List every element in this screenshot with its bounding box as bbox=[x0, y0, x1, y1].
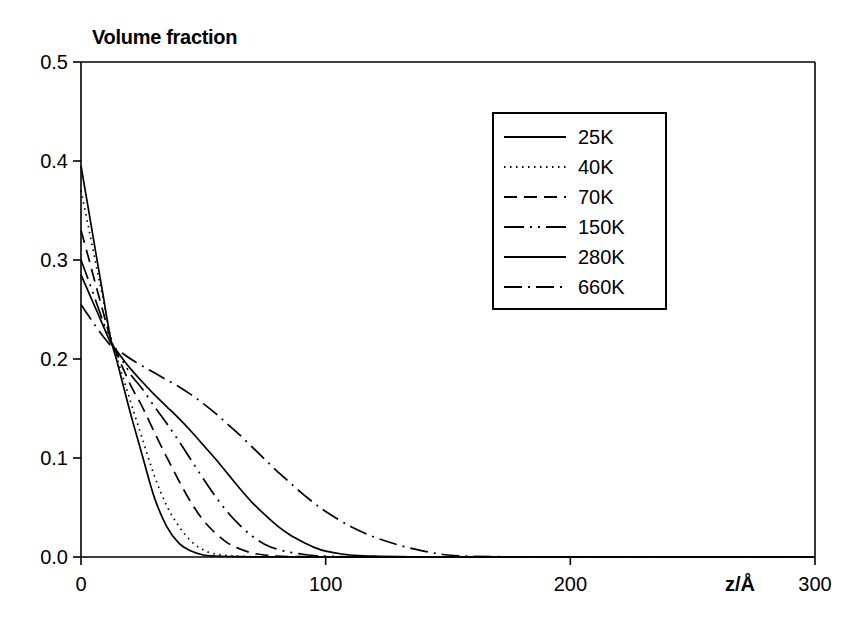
legend-line-sample-40K bbox=[504, 160, 566, 174]
legend-line-sample-70K bbox=[504, 190, 566, 204]
legend-label-280K: 280K bbox=[578, 247, 625, 267]
x-axis-title: z/Å bbox=[725, 573, 755, 596]
legend-item-660K: 660K bbox=[504, 273, 662, 301]
legend-label-150K: 150K bbox=[578, 217, 625, 237]
chart-figure: Volume fraction 0.00.10.20.30.40.5 01002… bbox=[0, 0, 858, 633]
legend-label-660K: 660K bbox=[578, 277, 625, 297]
series-line-150K bbox=[81, 260, 815, 557]
x-tick-label: 300 bbox=[798, 573, 831, 596]
legend-label-25K: 25K bbox=[578, 127, 614, 147]
y-tick-label: 0.2 bbox=[22, 348, 68, 371]
legend-line-sample-660K bbox=[504, 280, 566, 294]
series-group bbox=[81, 166, 815, 557]
legend-item-150K: 150K bbox=[504, 213, 662, 241]
legend-label-40K: 40K bbox=[578, 157, 614, 177]
series-line-25K bbox=[81, 166, 815, 557]
legend-line-sample-150K bbox=[504, 220, 566, 234]
x-tick-label: 0 bbox=[75, 573, 86, 596]
y-tick-label: 0.1 bbox=[22, 447, 68, 470]
legend-line-sample-280K bbox=[504, 250, 566, 264]
y-tick-label: 0.5 bbox=[22, 51, 68, 74]
legend-item-40K: 40K bbox=[504, 153, 662, 181]
x-tick-label: 100 bbox=[309, 573, 342, 596]
legend-label-70K: 70K bbox=[578, 187, 614, 207]
series-line-280K bbox=[81, 275, 815, 557]
y-tick-label: 0.4 bbox=[22, 150, 68, 173]
plot-canvas bbox=[0, 0, 858, 633]
legend-item-280K: 280K bbox=[504, 243, 662, 271]
chart-legend: 25K40K70K150K280K660K bbox=[492, 112, 667, 310]
series-line-40K bbox=[81, 191, 815, 557]
legend-line-sample-25K bbox=[504, 130, 566, 144]
y-tick-label: 0.3 bbox=[22, 249, 68, 272]
legend-item-70K: 70K bbox=[504, 183, 662, 211]
y-tick-label: 0.0 bbox=[22, 546, 68, 569]
x-tick-label: 200 bbox=[554, 573, 587, 596]
legend-item-25K: 25K bbox=[504, 123, 662, 151]
